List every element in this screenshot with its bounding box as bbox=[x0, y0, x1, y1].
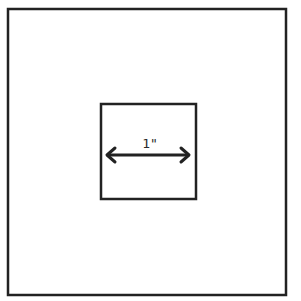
inner-square bbox=[101, 104, 196, 199]
dimension-label: 1" bbox=[142, 136, 158, 151]
diagram-canvas: 1" bbox=[0, 0, 301, 301]
outer-square bbox=[8, 9, 286, 295]
